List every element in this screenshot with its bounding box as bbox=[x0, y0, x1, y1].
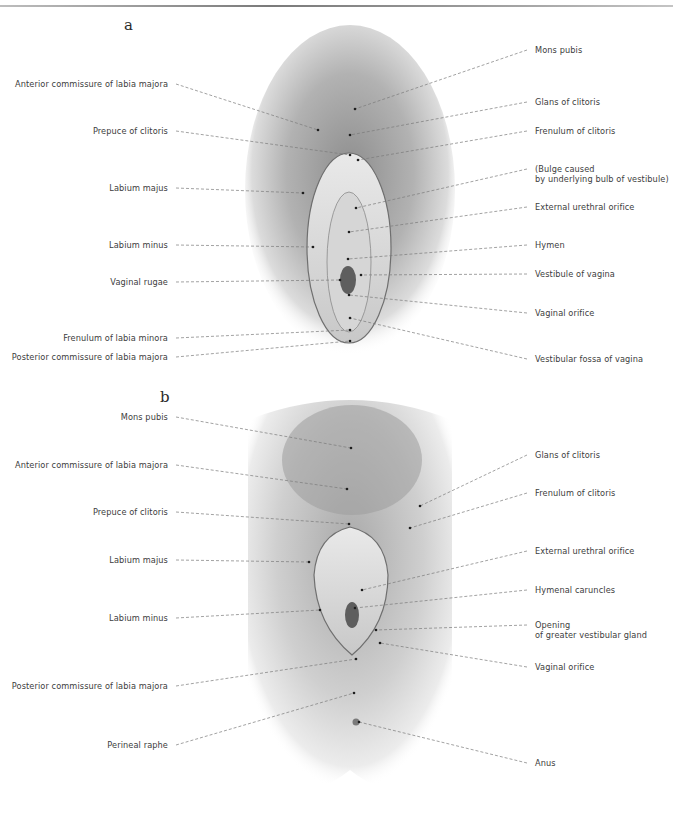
leader-endpoint-dot bbox=[355, 207, 358, 210]
leader-endpoint-dot bbox=[353, 692, 356, 695]
label-text: Glans of clitoris bbox=[535, 97, 600, 107]
leader-endpoint-dot bbox=[349, 329, 352, 332]
label-a-prepuce-of-clitoris: Prepuce of clitoris bbox=[93, 126, 168, 136]
leader-endpoint-dot bbox=[350, 447, 353, 450]
label-a-frenulum-of-clitoris: Frenulum of clitoris bbox=[535, 126, 615, 136]
label-a-glans-of-clitoris: Glans of clitoris bbox=[535, 97, 600, 107]
leader-endpoint-dot bbox=[349, 134, 352, 137]
label-b-prepuce-of-clitoris: Prepuce of clitoris bbox=[93, 507, 168, 517]
label-text: Anterior commissure of labia majora bbox=[15, 460, 168, 470]
label-text: External urethral orifice bbox=[535, 202, 635, 212]
label-b-posterior-commissure-of-labia-majora: Posterior commissure of labia majora bbox=[12, 681, 168, 691]
label-b-anus: Anus bbox=[535, 758, 556, 768]
label-b-external-urethral-orifice: External urethral orifice bbox=[535, 546, 635, 556]
label-text: Labium majus bbox=[109, 555, 168, 565]
leader-endpoint-dot bbox=[317, 129, 320, 132]
leader-endpoint-dot bbox=[349, 154, 352, 157]
leader-endpoint-dot bbox=[357, 159, 360, 162]
leader-endpoint-dot bbox=[355, 658, 358, 661]
leader-endpoint-dot bbox=[419, 505, 422, 508]
label-a-vestibule-of-vagina: Vestibule of vagina bbox=[535, 269, 615, 279]
label-text: Vaginal rugae bbox=[110, 277, 168, 287]
label-b-perineal-raphe: Perineal raphe bbox=[107, 740, 168, 750]
leader-endpoint-dot bbox=[348, 523, 351, 526]
label-a-posterior-commissure-of-labia-majora: Posterior commissure of labia majora bbox=[12, 352, 168, 362]
label-text: Mons pubis bbox=[121, 412, 168, 422]
label-b-vaginal-orifice: Vaginal orifice bbox=[535, 662, 594, 672]
panel-a-figure bbox=[245, 25, 455, 355]
label-text-line2: of greater vestibular gland bbox=[535, 630, 647, 640]
leader-endpoint-dot bbox=[339, 279, 342, 282]
label-a-hymen: Hymen bbox=[535, 240, 565, 250]
label-a-external-urethral-orifice: External urethral orifice bbox=[535, 202, 635, 212]
label-a-vaginal-orifice: Vaginal orifice bbox=[535, 308, 594, 318]
label-text: Frenulum of clitoris bbox=[535, 488, 615, 498]
leader-endpoint-dot bbox=[354, 108, 357, 111]
figure-layer bbox=[0, 0, 673, 817]
label-text: Vaginal orifice bbox=[535, 308, 594, 318]
label-b-mons-pubis: Mons pubis bbox=[121, 412, 168, 422]
label-text: Frenulum of clitoris bbox=[535, 126, 615, 136]
label-text: Vestibule of vagina bbox=[535, 269, 615, 279]
leader-endpoint-dot bbox=[361, 589, 364, 592]
label-b-glans-of-clitoris: Glans of clitoris bbox=[535, 450, 600, 460]
leader-endpoint-dot bbox=[349, 340, 352, 343]
label-text: Hymen bbox=[535, 240, 565, 250]
leader-endpoint-dot bbox=[409, 527, 412, 530]
leader-endpoint-dot bbox=[349, 317, 352, 320]
leader-endpoint-dot bbox=[354, 607, 357, 610]
leader-endpoint-dot bbox=[379, 642, 382, 645]
label-text: Posterior commissure of labia majora bbox=[12, 352, 168, 362]
label-text: Frenulum of labia minora bbox=[63, 333, 168, 343]
label-text: Anterior commissure of labia majora bbox=[15, 79, 168, 89]
leader-endpoint-dot bbox=[302, 192, 305, 195]
label-text: Glans of clitoris bbox=[535, 450, 600, 460]
label-text-line2: by underlying bulb of vestibule) bbox=[535, 174, 669, 184]
label-a-labium-majus: Labium majus bbox=[109, 183, 168, 193]
label-a-vestibular-fossa-of-vagina: Vestibular fossa of vagina bbox=[535, 354, 643, 364]
label-b-labium-majus: Labium majus bbox=[109, 555, 168, 565]
label-text: Prepuce of clitoris bbox=[93, 126, 168, 136]
label-a-bulge-caused: (Bulge causedby underlying bulb of vesti… bbox=[535, 164, 669, 184]
leader-endpoint-dot bbox=[347, 258, 350, 261]
label-b-labium-minus: Labium minus bbox=[109, 613, 168, 623]
label-text: Labium majus bbox=[109, 183, 168, 193]
label-text: Opening bbox=[535, 620, 570, 630]
label-text: (Bulge caused bbox=[535, 164, 595, 174]
leader-endpoint-dot bbox=[375, 629, 378, 632]
leader-endpoint-dot bbox=[312, 246, 315, 249]
label-text: Anus bbox=[535, 758, 556, 768]
label-a-frenulum-of-labia-minora: Frenulum of labia minora bbox=[63, 333, 168, 343]
leader-endpoint-dot bbox=[308, 561, 311, 564]
label-text: Vaginal orifice bbox=[535, 662, 594, 672]
label-text: Vestibular fossa of vagina bbox=[535, 354, 643, 364]
leader-endpoint-dot bbox=[319, 609, 322, 612]
label-text: Labium minus bbox=[109, 240, 168, 250]
label-text: Posterior commissure of labia majora bbox=[12, 681, 168, 691]
label-b-opening: Openingof greater vestibular gland bbox=[535, 620, 647, 640]
label-b-hymenal-caruncles: Hymenal caruncles bbox=[535, 585, 615, 595]
label-a-vaginal-rugae: Vaginal rugae bbox=[110, 277, 168, 287]
label-a-anterior-commissure-of-labia-majora: Anterior commissure of labia majora bbox=[15, 79, 168, 89]
label-text: Prepuce of clitoris bbox=[93, 507, 168, 517]
label-text: External urethral orifice bbox=[535, 546, 635, 556]
label-b-frenulum-of-clitoris: Frenulum of clitoris bbox=[535, 488, 615, 498]
leader-endpoint-dot bbox=[348, 231, 351, 234]
leader-endpoint-dot bbox=[346, 488, 349, 491]
label-b-anterior-commissure-of-labia-majora: Anterior commissure of labia majora bbox=[15, 460, 168, 470]
label-text: Hymenal caruncles bbox=[535, 585, 615, 595]
leader-endpoint-dot bbox=[360, 274, 363, 277]
leader-endpoint-dot bbox=[358, 721, 361, 724]
label-text: Perineal raphe bbox=[107, 740, 168, 750]
label-text: Mons pubis bbox=[535, 45, 582, 55]
leader-endpoint-dot bbox=[348, 294, 351, 297]
panel-b-figure bbox=[248, 400, 452, 790]
label-a-labium-minus: Labium minus bbox=[109, 240, 168, 250]
label-a-mons-pubis: Mons pubis bbox=[535, 45, 582, 55]
label-text: Labium minus bbox=[109, 613, 168, 623]
